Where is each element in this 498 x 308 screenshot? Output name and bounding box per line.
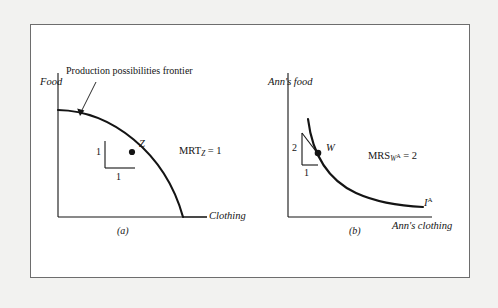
figure-frame: Food Production possibilities frontier 1… (30, 24, 470, 278)
indifference-curve-label: IA (424, 197, 433, 208)
mrt-value: = 1 (208, 145, 222, 156)
panel-b-run-label: 1 (304, 168, 309, 178)
mrs-text: MRS (368, 150, 390, 161)
panel-b-y-axis-label: Ann's food (268, 77, 313, 88)
panel-b-graphic (246, 25, 471, 279)
panel-a-x-axis-label: Clothing (209, 211, 246, 222)
mrs-subscript-superscript: A (396, 152, 400, 159)
panel-a-frontier-callout-label: Production possibilities frontier (66, 66, 193, 76)
production-possibilities-frontier-curve (58, 110, 183, 217)
panel-a-run-label: 1 (116, 172, 121, 182)
panel-a-y-axis-label: Food (40, 77, 62, 88)
panel-a: Food Production possibilities frontier 1… (31, 25, 256, 277)
point-w-label: W (326, 143, 335, 154)
curve-label-superscript: A (428, 196, 433, 204)
panel-a-rise-label: 1 (96, 147, 101, 157)
panel-b-x-axis-label: Ann's clothing (392, 221, 452, 232)
mrt-text: MRT (179, 145, 201, 156)
point-z-marker (129, 149, 135, 155)
panel-b-caption: (b) (349, 226, 361, 236)
panel-b-mrs-equation: MRSWA = 2 (368, 151, 417, 163)
panel-b-rise-label: 2 (292, 143, 297, 153)
mrs-subscript: WA (390, 155, 400, 163)
point-w-marker (315, 150, 322, 157)
panel-b: Ann's food 2 1 W MRSWA = 2 IA Ann's clot… (246, 25, 471, 277)
panel-a-caption: (a) (117, 226, 129, 236)
mrt-subscript: Z (201, 150, 205, 158)
callout-arrow-line (81, 82, 96, 112)
mrs-value: = 2 (403, 150, 417, 161)
panel-a-graphic (31, 25, 256, 279)
panel-a-mrt-equation: MRTZ = 1 (179, 146, 222, 158)
point-z-label: Z (139, 139, 145, 150)
